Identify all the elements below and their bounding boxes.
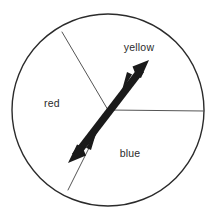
sector-label-red: red	[44, 97, 60, 109]
spinner-wheel-svg: red yellow blue	[0, 0, 216, 218]
sector-label-yellow: yellow	[124, 41, 155, 53]
spinner-figure: red yellow blue	[0, 0, 216, 218]
sector-label-blue: blue	[120, 147, 141, 159]
